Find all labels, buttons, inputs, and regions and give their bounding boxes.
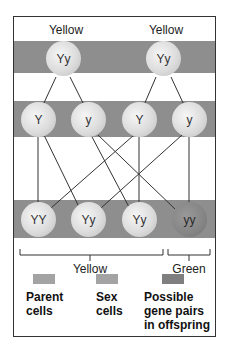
offspring-cell-4: yy xyxy=(172,202,207,237)
legend-swatch-parent xyxy=(33,274,55,284)
legend-swatch-sex xyxy=(96,274,118,284)
offspring-cell-1: YY xyxy=(21,202,56,237)
legend-label-parent: Parent cells xyxy=(26,290,63,318)
parent-cell-2: Yy xyxy=(146,41,181,76)
parent-cell-1: Yy xyxy=(46,41,81,76)
punnett-diagram-frame: Yellow Yellow Yy Yy Y xyxy=(13,16,216,337)
offspring-cell-3: Yy xyxy=(122,202,157,237)
sex-cell-3: Y xyxy=(122,102,157,137)
sex-cell-2: y xyxy=(71,102,106,137)
sex-cell-1: Y xyxy=(21,102,56,137)
legend-swatch-offspring xyxy=(162,274,184,284)
legend-label-offspring: Possible gene pairs in offspring xyxy=(144,290,210,332)
offspring-cell-2: Yy xyxy=(71,202,106,237)
inheritance-lines xyxy=(14,17,217,277)
sex-cell-4: y xyxy=(172,102,207,137)
legend-label-sex: Sex cells xyxy=(96,290,123,318)
